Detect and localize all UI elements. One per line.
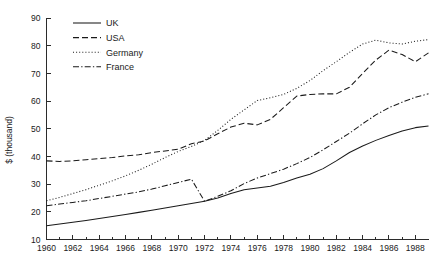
axes: 102030405060708090 196019621964196619681…	[31, 13, 428, 253]
x-tick-label: 1988	[406, 243, 425, 253]
y-axis-tick-labels: 102030405060708090	[31, 13, 41, 245]
y-axis-ticks	[47, 18, 51, 240]
x-tick-label: 1980	[300, 243, 319, 253]
x-tick-label: 1968	[142, 243, 161, 253]
x-axis-tick-labels: 1960196219641966196819701972197419761978…	[37, 243, 425, 253]
x-tick-label: 1966	[116, 243, 135, 253]
data-series-group	[47, 40, 429, 226]
line-chart: 102030405060708090 196019621964196619681…	[0, 0, 438, 269]
series-line-germany	[47, 40, 429, 201]
x-tick-label: 1970	[169, 243, 188, 253]
x-tick-label: 1976	[248, 243, 267, 253]
x-tick-label: 1964	[90, 243, 109, 253]
x-tick-label: 1972	[195, 243, 214, 253]
series-line-usa	[47, 50, 429, 161]
chart-legend: UKUSAGermanyFrance	[73, 18, 144, 72]
series-line-france	[47, 94, 429, 206]
chart-canvas: 102030405060708090 196019621964196619681…	[0, 0, 438, 269]
y-tick-label: 50	[31, 124, 41, 134]
y-tick-label: 80	[31, 41, 41, 51]
legend-label-uk: UK	[106, 18, 119, 28]
x-tick-label: 1960	[37, 243, 56, 253]
x-tick-label: 1982	[327, 243, 346, 253]
legend-label-germany: Germany	[106, 48, 144, 58]
x-tick-label: 1978	[274, 243, 293, 253]
y-tick-label: 90	[31, 13, 41, 23]
x-tick-label: 1962	[63, 243, 82, 253]
y-tick-label: 40	[31, 152, 41, 162]
y-tick-label: 60	[31, 96, 41, 106]
y-axis-title: $ (thousand)	[4, 116, 14, 164]
x-tick-label: 1974	[221, 243, 240, 253]
legend-label-france: France	[106, 62, 134, 72]
x-axis-ticks	[47, 235, 416, 240]
y-tick-label: 20	[31, 207, 41, 217]
legend-label-usa: USA	[106, 33, 125, 43]
series-line-uk	[47, 126, 429, 226]
x-tick-label: 1986	[380, 243, 399, 253]
x-tick-label: 1984	[353, 243, 372, 253]
y-tick-label: 70	[31, 69, 41, 79]
y-tick-label: 30	[31, 179, 41, 189]
